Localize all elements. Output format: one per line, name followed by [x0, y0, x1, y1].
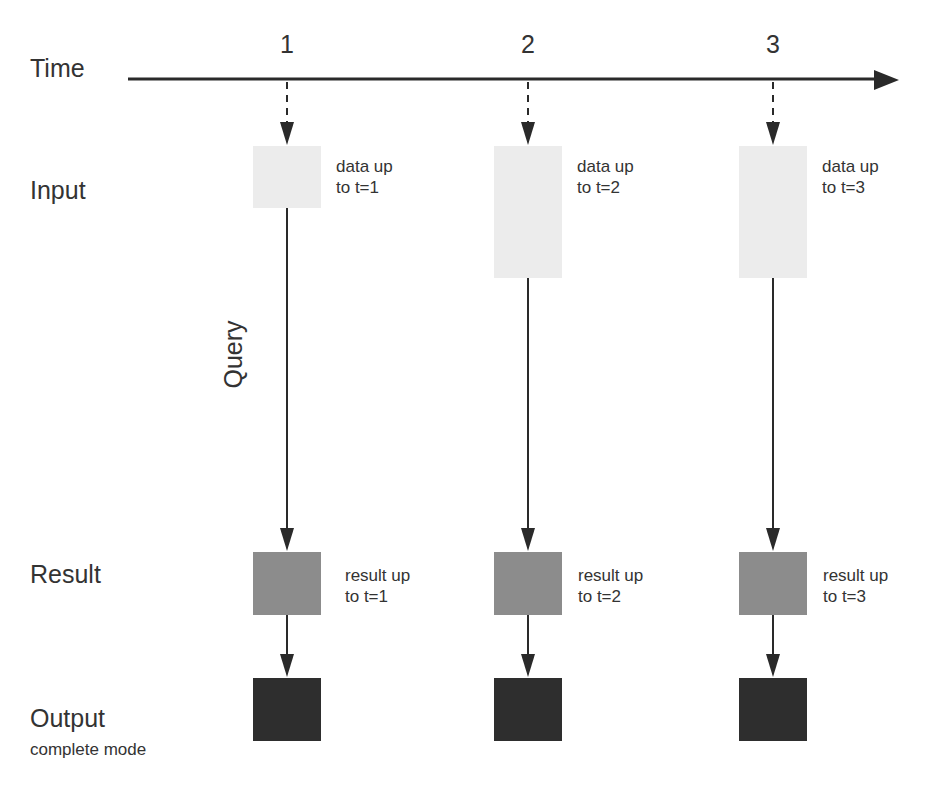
output-box-t1: [253, 678, 321, 741]
input-box-t2: [494, 146, 562, 278]
result-box-t1: [253, 552, 321, 615]
input-note-t2: data up to t=2: [577, 156, 634, 198]
input-note-line-1: data up: [336, 156, 393, 177]
time-axis-arrow-icon: [874, 70, 899, 90]
input-box-t3: [739, 146, 807, 278]
input-box-t1: [253, 146, 321, 208]
input-note-line-1: data up: [577, 156, 634, 177]
input-note-line-2: to t=1: [336, 177, 393, 198]
result-note-t1: result up to t=1: [345, 565, 410, 607]
result-note-line-2: to t=2: [578, 586, 643, 607]
output-box-t2: [494, 678, 562, 741]
input-note-line-1: data up: [822, 156, 879, 177]
result-note-t3: result up to t=3: [823, 565, 888, 607]
result-note-line-1: result up: [823, 565, 888, 586]
result-note-line-2: to t=1: [345, 586, 410, 607]
result-note-line-2: to t=3: [823, 586, 888, 607]
result-note-t2: result up to t=2: [578, 565, 643, 607]
input-note-t3: data up to t=3: [822, 156, 879, 198]
result-note-line-1: result up: [345, 565, 410, 586]
input-note-t1: data up to t=1: [336, 156, 393, 198]
input-note-line-2: to t=3: [822, 177, 879, 198]
input-note-line-2: to t=2: [577, 177, 634, 198]
output-box-t3: [739, 678, 807, 741]
result-box-t2: [494, 552, 562, 615]
result-note-line-1: result up: [578, 565, 643, 586]
result-box-t3: [739, 552, 807, 615]
